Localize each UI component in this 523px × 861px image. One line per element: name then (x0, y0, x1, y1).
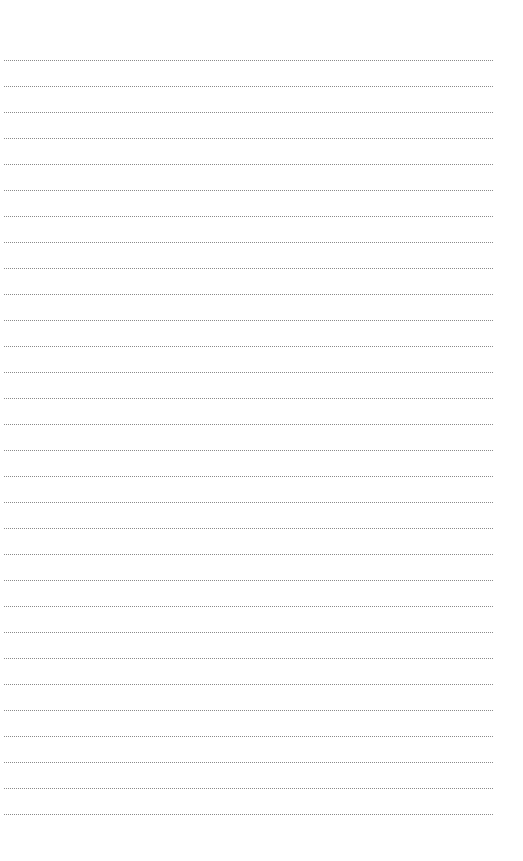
ruled-line (4, 294, 493, 295)
ruled-line (4, 242, 493, 243)
ruled-line (4, 450, 493, 451)
ruled-line (4, 710, 493, 711)
ruled-line (4, 476, 493, 477)
ruled-line (4, 164, 493, 165)
ruled-line (4, 112, 493, 113)
ruled-line (4, 606, 493, 607)
ruled-line (4, 60, 493, 61)
ruled-line (4, 814, 493, 815)
ruled-line (4, 268, 493, 269)
ruled-line (4, 580, 493, 581)
ruled-line (4, 86, 493, 87)
lined-page (0, 0, 523, 861)
ruled-line (4, 528, 493, 529)
ruled-line (4, 632, 493, 633)
ruled-line (4, 502, 493, 503)
ruled-line (4, 320, 493, 321)
ruled-line (4, 788, 493, 789)
ruled-line (4, 762, 493, 763)
ruled-line (4, 736, 493, 737)
ruled-line (4, 190, 493, 191)
ruled-line (4, 554, 493, 555)
ruled-line (4, 684, 493, 685)
ruled-line (4, 138, 493, 139)
ruled-line (4, 216, 493, 217)
ruled-line (4, 424, 493, 425)
ruled-line (4, 372, 493, 373)
ruled-line (4, 398, 493, 399)
ruled-line (4, 658, 493, 659)
ruled-line (4, 346, 493, 347)
